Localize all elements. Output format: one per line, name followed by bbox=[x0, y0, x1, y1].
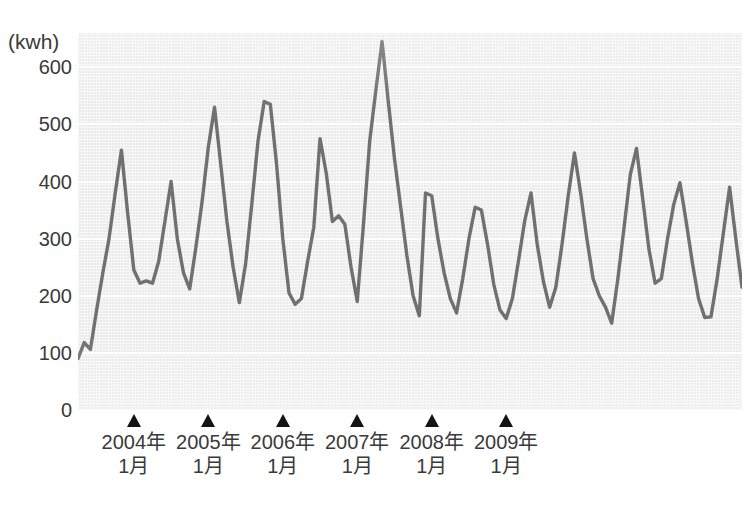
y-axis-tick-label: 200 bbox=[4, 286, 72, 306]
x-axis-year-label: 2009年 bbox=[446, 430, 566, 454]
triangle-marker-icon bbox=[276, 414, 290, 427]
x-axis-marker: 2009年1月 bbox=[446, 410, 566, 478]
y-axis-tick-label: 300 bbox=[4, 229, 72, 249]
line-chart: (kwh) 0100200300400500600 2004年1月2005年1月… bbox=[0, 0, 756, 513]
triangle-marker-icon bbox=[499, 414, 513, 427]
y-axis-tick-label: 400 bbox=[4, 172, 72, 192]
x-axis-month-label: 1月 bbox=[446, 454, 566, 478]
triangle-marker-icon bbox=[425, 414, 439, 427]
triangle-marker-icon bbox=[127, 414, 141, 427]
triangle-marker-icon bbox=[201, 414, 215, 427]
y-axis: 0100200300400500600 bbox=[0, 33, 72, 410]
y-axis-tick-label: 500 bbox=[4, 114, 72, 134]
triangle-marker-icon bbox=[350, 414, 364, 427]
series-line bbox=[78, 33, 742, 410]
y-axis-tick-label: 0 bbox=[4, 400, 72, 420]
plot-area bbox=[78, 33, 742, 410]
y-axis-tick-label: 600 bbox=[4, 57, 72, 77]
x-axis: 2004年1月2005年1月2006年1月2007年1月2008年1月2009年… bbox=[78, 410, 742, 510]
y-axis-tick-label: 100 bbox=[4, 343, 72, 363]
